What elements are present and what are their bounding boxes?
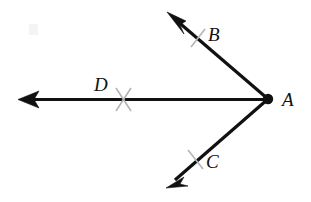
vertex-a-dot [263,94,273,104]
vertex-a: A [263,89,294,110]
scan-artifact [29,24,38,35]
ray-ab: B [167,12,268,99]
ray-ac-line [175,99,268,180]
ray-ac: C [166,99,268,188]
ray-ac-label: C [206,151,219,172]
diagram-canvas: B D C A [0,0,311,202]
ray-ad: D [18,74,268,111]
ray-ab-arrowhead [167,12,186,34]
vertex-a-label: A [280,89,294,110]
ray-ab-label: B [208,24,220,45]
geometry-diagram: B D C A [0,0,311,202]
ray-ad-label: D [93,74,108,95]
ray-ab-line [176,20,268,99]
